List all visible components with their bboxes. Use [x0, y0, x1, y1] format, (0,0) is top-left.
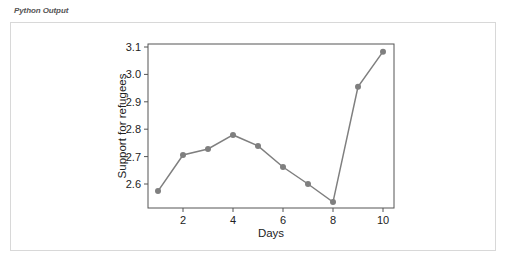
data-point — [380, 49, 386, 55]
x-axis-label: Days — [258, 227, 284, 239]
data-point — [230, 132, 236, 138]
x-tick-label: 10 — [377, 214, 389, 226]
data-point — [180, 152, 186, 158]
line-chart: 2.62.72.82.93.03.1 246810 Days Support f… — [0, 0, 507, 264]
data-markers — [155, 49, 386, 205]
data-point — [155, 188, 161, 194]
plot-area — [148, 44, 394, 208]
data-point — [280, 164, 286, 170]
y-axis-label: Support for refugees — [116, 73, 128, 178]
data-point — [330, 199, 336, 205]
y-axis: 2.62.72.82.93.03.1 — [126, 41, 148, 190]
data-point — [205, 146, 211, 152]
data-point — [355, 84, 361, 90]
data-point — [255, 143, 261, 149]
data-line — [158, 52, 383, 202]
y-tick-label: 3.1 — [126, 41, 141, 53]
data-point — [305, 181, 311, 187]
x-tick-label: 6 — [280, 214, 286, 226]
x-tick-label: 4 — [230, 214, 236, 226]
x-axis: 246810 — [180, 208, 389, 226]
x-tick-label: 2 — [180, 214, 186, 226]
y-tick-label: 2.6 — [126, 178, 141, 190]
x-tick-label: 8 — [330, 214, 336, 226]
